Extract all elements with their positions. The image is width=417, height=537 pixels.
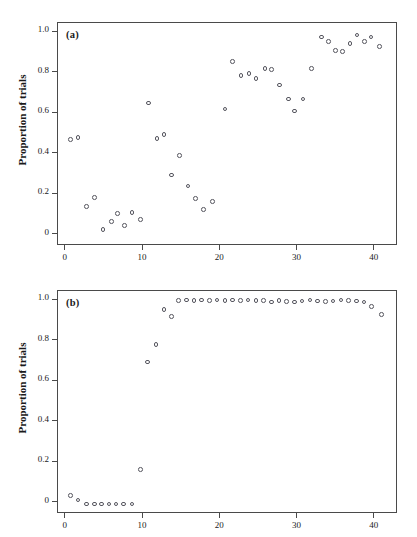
y-tick-label: 1.0 [38, 292, 49, 302]
data-point [284, 299, 289, 304]
data-point [286, 97, 291, 102]
data-point [99, 502, 104, 507]
data-point [362, 39, 367, 44]
y-tick-label: 0.2 [38, 454, 49, 464]
data-point [238, 298, 243, 303]
x-tick-mark [64, 513, 65, 518]
y-tick-label: 0.2 [38, 186, 49, 196]
data-point [239, 73, 244, 78]
data-point [92, 195, 97, 200]
data-point [130, 210, 135, 215]
data-point [354, 299, 359, 304]
x-axis-b: 010203040 [57, 513, 397, 537]
data-point [68, 493, 73, 498]
y-tick-label: 0.8 [38, 65, 49, 75]
data-point [230, 59, 235, 64]
data-point [145, 360, 150, 365]
figure-container: 00.20.40.60.81.0 (a) 010203040 Proportio… [0, 0, 417, 537]
data-point [247, 71, 252, 76]
data-point [201, 207, 206, 212]
y-tick-label: 0.4 [38, 146, 49, 156]
data-point [162, 307, 167, 312]
data-point [308, 298, 313, 303]
data-point [199, 298, 204, 303]
data-point [269, 300, 274, 305]
x-tick-label: 0 [51, 520, 79, 530]
data-point [154, 342, 159, 347]
data-point [246, 298, 251, 303]
data-point [377, 44, 382, 49]
y-tick-label: 0 [45, 495, 50, 505]
y-tick-label: 0.6 [38, 105, 49, 115]
data-point [223, 107, 228, 112]
data-point [300, 299, 305, 304]
data-point [333, 48, 338, 53]
plot-area-b: (b) [57, 290, 397, 513]
data-point [326, 39, 331, 44]
x-tick-label: 10 [128, 520, 156, 530]
x-tick-label: 30 [283, 520, 311, 530]
x-tick-label: 0 [51, 252, 79, 262]
data-point [155, 136, 160, 141]
plot-area-a: (a) [57, 22, 397, 245]
data-point [192, 298, 197, 303]
data-point [348, 41, 353, 46]
data-point [138, 467, 143, 472]
data-point [76, 498, 81, 503]
data-point [207, 298, 212, 303]
data-point [292, 300, 297, 305]
data-point [339, 298, 344, 303]
data-point [101, 227, 106, 232]
x-tick-label: 40 [360, 252, 388, 262]
data-point [230, 298, 235, 303]
x-tick-label: 40 [360, 520, 388, 530]
data-point [309, 66, 314, 71]
data-point [84, 204, 89, 209]
x-tick-mark [219, 513, 220, 518]
data-point [340, 49, 345, 54]
data-point [254, 76, 259, 81]
data-point [210, 199, 215, 204]
y-tick-label: 1.0 [38, 24, 49, 34]
data-point [315, 299, 320, 304]
x-tick-label: 20 [205, 252, 233, 262]
data-point [115, 211, 120, 216]
data-point [186, 184, 191, 189]
data-point [277, 83, 282, 88]
data-point [263, 66, 268, 71]
data-point [269, 67, 274, 72]
panel-label-b: (b) [66, 297, 79, 308]
data-point [369, 304, 374, 309]
data-point [261, 298, 266, 303]
data-point [162, 132, 167, 137]
data-point [122, 223, 127, 228]
data-point [362, 300, 367, 305]
data-point [109, 219, 114, 224]
panel-a: 00.20.40.60.81.0 (a) 010203040 Proportio… [0, 0, 417, 268]
data-point [184, 298, 189, 303]
data-point [379, 312, 384, 317]
data-point [130, 502, 135, 507]
x-tick-mark [296, 245, 297, 250]
data-point [146, 101, 151, 106]
data-point [92, 502, 97, 507]
data-point [121, 502, 126, 507]
data-point [76, 135, 81, 140]
y-tick-label: 0.4 [38, 414, 49, 424]
data-point [355, 33, 360, 38]
data-point [277, 298, 282, 303]
data-point [169, 314, 174, 319]
x-tick-mark [142, 513, 143, 518]
data-point [138, 217, 143, 222]
data-point [177, 153, 182, 158]
y-axis-label-b: Proportion of trials [16, 308, 28, 468]
x-tick-label: 30 [283, 252, 311, 262]
x-tick-mark [219, 245, 220, 250]
x-tick-mark [142, 245, 143, 250]
data-point [223, 298, 228, 303]
data-point [114, 502, 119, 507]
y-axis-b: 00.20.40.60.81.0 [0, 290, 57, 513]
x-axis-a: 010203040 [57, 245, 397, 269]
data-point [84, 502, 89, 507]
data-point [292, 109, 297, 114]
